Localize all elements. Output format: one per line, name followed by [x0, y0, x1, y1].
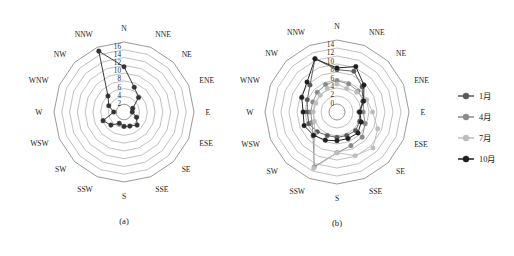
direction-label-ne: NE: [182, 50, 192, 59]
direction-label-wsw: WSW: [241, 140, 260, 149]
direction-label-n: N: [121, 24, 127, 33]
data-point-se: [135, 123, 140, 128]
radial-tick-14: 14: [114, 51, 122, 59]
direction-label-sse: SSE: [369, 187, 382, 196]
legend-marker-circle: [463, 93, 469, 99]
series-line: [313, 84, 377, 168]
direction-label-se: SE: [396, 167, 405, 176]
data-point-ssw: [323, 138, 328, 143]
data-point-sse: [346, 136, 351, 141]
direction-label-nnw: NNW: [75, 30, 94, 39]
legend-item-4月[interactable]: 4月: [458, 113, 491, 122]
grid-ring-5: [85, 73, 163, 151]
data-point-ssw: [325, 133, 330, 138]
direction-label-s: S: [335, 194, 339, 203]
direction-label-nnw: NNW: [287, 28, 306, 37]
data-point-w: [301, 110, 306, 115]
legend-item-1月[interactable]: 1月: [458, 92, 491, 101]
direction-label-wsw: WSW: [30, 139, 49, 148]
data-point-wsw: [101, 118, 106, 123]
wind-rose-figure: 246810121416NNNENEENEEESESESSESSSWSWWSWW…: [0, 0, 514, 256]
data-point-sw: [311, 133, 316, 138]
grid-ring-2: [321, 96, 353, 128]
legend-label: 4月: [479, 113, 491, 122]
legend-label: 7月: [479, 134, 491, 143]
direction-label-w: W: [35, 108, 43, 117]
grid-ring-9: [265, 40, 409, 184]
legend-item-7月[interactable]: 7月: [458, 134, 491, 143]
data-point-ese: [134, 115, 139, 120]
data-point-ese: [359, 120, 364, 125]
radial-tick-0: 0: [330, 100, 334, 108]
data-point-ne: [136, 95, 141, 100]
direction-label-ssw: SSW: [289, 187, 305, 196]
panel-caption-a: (a): [119, 216, 129, 226]
data-point-nne: [354, 64, 359, 69]
legend-marker-circle: [463, 135, 469, 141]
direction-label-ene: ENE: [199, 76, 214, 85]
direction-label-wnw: WNW: [240, 76, 261, 85]
data-point-ese: [375, 127, 380, 132]
radial-tick-12: 12: [327, 49, 335, 57]
radial-tick-16: 16: [114, 43, 122, 51]
data-point-nnw: [313, 56, 318, 61]
direction-label-n: N: [334, 22, 340, 31]
legend-marker-circle: [463, 156, 469, 162]
data-point-w: [311, 110, 316, 115]
data-point-ne: [354, 90, 359, 95]
legend: 1月4月7月10月: [458, 92, 495, 164]
grid-ring-6: [77, 65, 170, 158]
data-point-n: [122, 64, 127, 69]
data-point-nne: [344, 86, 349, 91]
data-point-e: [370, 110, 375, 115]
direction-label-e: E: [206, 108, 211, 117]
radial-tick-14: 14: [327, 41, 335, 49]
direction-label-ene: ENE: [414, 76, 429, 85]
data-point-se: [356, 131, 361, 136]
legend-marker-circle: [463, 114, 469, 120]
data-point-nne: [352, 69, 357, 74]
data-point-ne: [362, 83, 367, 88]
data-point-s: [122, 124, 127, 129]
data-point-se: [360, 135, 365, 140]
direction-label-ese: ESE: [199, 139, 213, 148]
data-point-se: [371, 146, 376, 151]
data-point-s: [335, 139, 340, 144]
series-7月: [311, 82, 380, 171]
data-point-sse: [349, 143, 354, 148]
data-point-nnw: [325, 86, 330, 91]
legend-item-10月[interactable]: 10月: [458, 155, 495, 164]
radial-tick-6: 6: [117, 84, 121, 92]
data-point-n: [335, 82, 340, 87]
direction-label-ne: NE: [396, 49, 406, 58]
radial-tick-4: 4: [117, 92, 121, 100]
data-point-nne: [132, 85, 137, 90]
direction-label-ssw: SSW: [77, 185, 93, 194]
data-point-nne: [346, 82, 351, 87]
data-point-w: [111, 110, 116, 115]
data-point-wsw: [302, 123, 307, 128]
direction-label-nne: NNE: [369, 28, 385, 37]
radar-panel-b: 02468101214NNNENEENEEESESESSESSSWSWWSWWW…: [240, 22, 429, 228]
data-point-nw: [106, 94, 111, 99]
direction-label-nne: NNE: [155, 30, 171, 39]
radial-tick-2: 2: [117, 100, 121, 108]
data-point-ssw: [311, 166, 316, 171]
data-point-n: [335, 66, 340, 71]
data-point-ssw: [117, 121, 122, 126]
data-point-wnw: [299, 95, 304, 100]
data-point-s: [335, 150, 340, 155]
data-point-sse: [128, 124, 133, 129]
grid-ring-9: [54, 42, 194, 182]
legend-label: 10月: [479, 155, 495, 164]
radial-tick-2: 2: [330, 91, 334, 99]
grid-ring-4: [93, 81, 155, 143]
panel-caption-b: (b): [332, 218, 342, 228]
data-point-wnw: [314, 101, 319, 106]
legend-label: 1月: [479, 92, 491, 101]
radial-tick-8: 8: [117, 75, 121, 83]
direction-label-sw: SW: [267, 167, 279, 176]
radial-tick-10: 10: [114, 67, 122, 75]
figure-canvas: 246810121416NNNENEENEEESESESSESSSWSWWSWW…: [0, 0, 514, 256]
data-point-nnw: [96, 49, 101, 54]
